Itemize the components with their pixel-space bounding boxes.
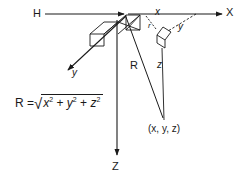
label-y-component: y bbox=[178, 22, 183, 32]
equation-plus-2: + bbox=[80, 96, 87, 110]
z-component-line bbox=[162, 48, 164, 120]
label-r-component: r bbox=[148, 22, 151, 30]
equation-radicand: x2 + y2 + z2 bbox=[41, 94, 103, 109]
label-x-axis: X bbox=[226, 7, 233, 18]
coordinate-diagram: H X x y r y R z Z (x, y, z) R =√x2 + y2 … bbox=[0, 0, 244, 180]
label-h-reference: H bbox=[33, 8, 41, 19]
term-x-exponent: 2 bbox=[49, 96, 53, 103]
label-x-component: x bbox=[155, 7, 160, 17]
label-point-coordinates: (x, y, z) bbox=[148, 124, 180, 134]
diamond-stem-base bbox=[157, 43, 165, 48]
label-y-axis: y bbox=[72, 68, 77, 78]
equation-lhs: R = bbox=[15, 96, 34, 110]
equation-plus-1: + bbox=[57, 96, 64, 110]
label-z-axis: Z bbox=[112, 161, 119, 172]
parallelogram-diagonal-a bbox=[104, 15, 126, 34]
label-z-component: z bbox=[157, 60, 162, 70]
term-z-exponent: 2 bbox=[96, 96, 100, 103]
equation-range: R =√x2 + y2 + z2 bbox=[15, 94, 103, 111]
term-y-exponent: 2 bbox=[73, 96, 77, 103]
diamond-marker bbox=[157, 27, 171, 40]
diagram-canvas bbox=[0, 0, 244, 180]
label-range-R: R bbox=[130, 60, 138, 71]
